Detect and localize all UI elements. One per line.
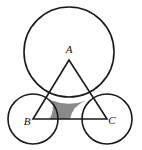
geometry-figure-container: A B C xyxy=(0,0,142,150)
geometry-figure-svg: A B C xyxy=(0,0,142,150)
shaded-curvilinear-triangle xyxy=(50,100,87,119)
vertex-label-A: A xyxy=(65,43,73,55)
vertex-label-C: C xyxy=(108,114,116,126)
vertex-label-B: B xyxy=(24,115,31,127)
